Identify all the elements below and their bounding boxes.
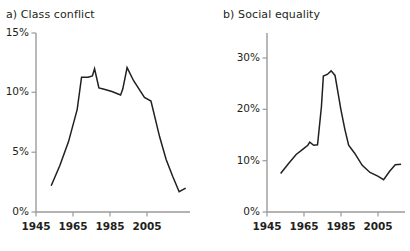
panel-b-data-line (281, 71, 402, 180)
panel-a-data-line (51, 68, 185, 192)
panel-b-ylabel-0: 0% (229, 206, 260, 217)
panel-class-conflict: a) Class conflict 15% 10% 5% 0% 1945 196… (0, 0, 205, 251)
panel-social-equality: b) Social equality 30% 20% 10% 0% 1945 1… (205, 0, 410, 251)
panel-b-ylabel-30: 30% (229, 52, 260, 63)
panel-b-ylabel-20: 20% (229, 103, 260, 114)
panel-a-ylabel-15: 15% (0, 27, 29, 38)
panel-a-ylabel-5: 5% (0, 146, 29, 157)
figure-two-panel-line-charts: a) Class conflict 15% 10% 5% 0% 1945 196… (0, 0, 410, 251)
panel-b-xlabel-2005: 2005 (353, 221, 403, 232)
panel-a-xlabel-2005: 2005 (122, 221, 172, 232)
panel-a-ylabel-0: 0% (0, 206, 29, 217)
panel-a-ylabel-10: 10% (0, 86, 29, 97)
panel-b-ylabel-10: 10% (229, 155, 260, 166)
panel-a-plot (0, 0, 205, 251)
